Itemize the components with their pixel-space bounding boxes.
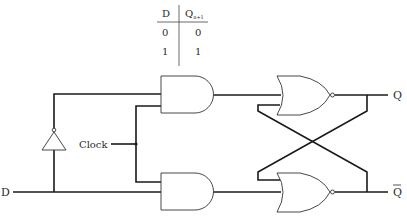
table-row-1-q: 0 (195, 27, 201, 38)
table-header-q: Qn+1 (185, 8, 204, 20)
lower-nor-gate-icon (277, 173, 330, 212)
upper-and-gate-icon (161, 76, 214, 113)
upper-nor-gate (277, 76, 335, 115)
output-q-bar-label: Q (393, 186, 402, 199)
inverter-to-upper-and-wire (54, 94, 161, 131)
table-row-1-d: 0 (162, 27, 168, 38)
upper-nor-bubble-icon (331, 93, 335, 97)
clock-to-upper-and-wire (136, 106, 161, 182)
truth-table: D Qn+1 0 0 1 1 (157, 5, 208, 66)
table-header-q-subscript: n+1 (193, 14, 204, 20)
d-flip-flop-diagram: D Qn+1 0 0 1 1 (0, 0, 407, 219)
clock-label: Clock (79, 139, 108, 150)
inverter-triangle-icon (42, 132, 66, 150)
output-q-bar: Q (393, 185, 402, 199)
output-q-label: Q (393, 89, 402, 102)
input-d-label: D (1, 186, 10, 199)
table-row-2-q: 1 (195, 46, 201, 57)
inverter-gate (42, 128, 66, 150)
table-header-d: D (162, 8, 170, 19)
clock-junction-dot (134, 142, 137, 145)
inverter-bubble-icon (52, 128, 56, 132)
upper-nor-gate-icon (277, 76, 330, 115)
table-row-2-d: 1 (162, 46, 168, 57)
lower-nor-gate (277, 173, 335, 212)
lower-and-gate-icon (161, 173, 214, 210)
lower-nor-bubble-icon (331, 190, 335, 194)
